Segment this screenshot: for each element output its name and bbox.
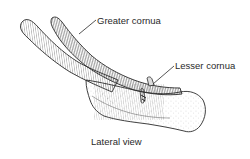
label-lesser-cornua: Lesser cornua <box>175 61 235 71</box>
hyoid-body <box>86 80 205 132</box>
leader-line-lesser-cornua <box>153 66 174 84</box>
label-greater-cornua: Greater cornua <box>97 16 161 26</box>
greater-cornu-near <box>20 20 118 92</box>
figure-caption: Lateral view <box>91 137 142 147</box>
hyoid-lateral-view-figure: Greater cornua Lesser cornua Lateral vie… <box>0 0 250 159</box>
greater-cornu-far <box>51 17 182 95</box>
leader-line-greater-cornua <box>79 20 96 34</box>
